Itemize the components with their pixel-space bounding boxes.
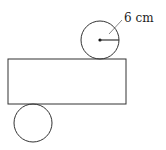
- cylinder-net-diagram: 6 cm: [0, 0, 166, 150]
- label-leader-line: [109, 20, 122, 34]
- bottom-base-circle: [14, 104, 52, 142]
- lateral-surface-rectangle: [8, 59, 126, 104]
- radius-label: 6 cm: [124, 11, 154, 25]
